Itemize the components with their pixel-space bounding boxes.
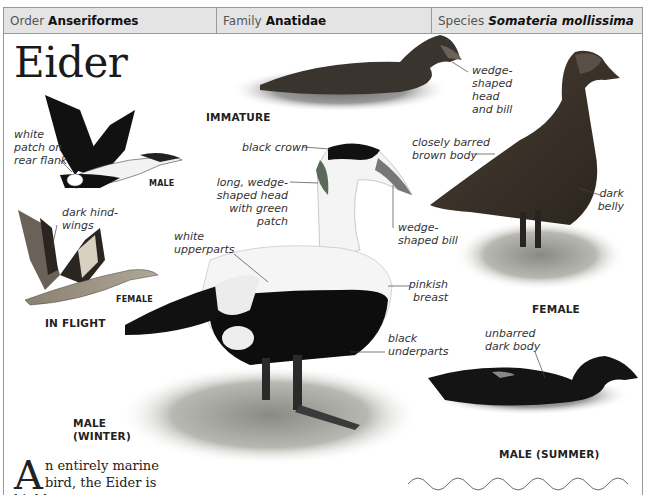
caption-line: brown body	[412, 149, 490, 162]
page-title: Eider	[14, 38, 127, 87]
label-female-flight: FEMALE	[116, 293, 153, 306]
caption-line: unbarred	[485, 327, 540, 340]
caption-black-crown: black crown	[242, 141, 308, 154]
male-summer-illustration	[428, 356, 638, 415]
caption-closely-barred: closely barred brown body	[412, 136, 490, 162]
caption-line: pinkish	[406, 278, 448, 291]
wave-divider	[408, 478, 628, 490]
label-male-flight: MALE	[149, 177, 175, 190]
caption-wedge-bill: wedge- shaped bill	[398, 221, 458, 247]
caption-line: dark hind-	[62, 206, 118, 219]
caption-line: breast	[406, 291, 448, 304]
caption-long-wedge-head: long, wedge- shaped head with green patc…	[208, 176, 288, 228]
label-male-summer: MALE (SUMMER)	[499, 448, 600, 461]
caption-line: wings	[62, 219, 118, 232]
caption-line: black	[388, 332, 449, 345]
label-line: (WINTER)	[73, 430, 131, 443]
caption-line: belly	[592, 200, 624, 213]
caption-line: white	[14, 128, 67, 141]
caption-black-underparts: black underparts	[388, 332, 449, 358]
caption-line: upperparts	[174, 243, 235, 256]
caption-line: patch on	[14, 141, 67, 154]
caption-line: rear flank	[14, 154, 67, 167]
caption-line: closely barred	[412, 136, 490, 149]
immature-illustration	[230, 35, 462, 112]
caption-line: shaped bill	[398, 234, 458, 247]
caption-line: white	[174, 230, 235, 243]
body-text: A n entirely marine bird, the Eider is h…	[14, 457, 170, 495]
label-female: FEMALE	[532, 303, 580, 316]
caption-dark-belly: dark belly	[592, 187, 624, 213]
label-in-flight: IN FLIGHT	[45, 317, 106, 330]
label-line: MALE	[73, 417, 131, 430]
caption-line: and bill	[472, 103, 512, 116]
label-immature: IMMATURE	[206, 111, 271, 124]
caption-line: wedge-	[472, 64, 512, 77]
caption-line: head	[472, 90, 512, 103]
caption-line: with green patch	[208, 202, 288, 228]
caption-white-patch: white patch on rear flank	[14, 128, 67, 167]
drop-cap: A	[14, 459, 43, 491]
caption-wedge-head-bill: wedge- shaped head and bill	[472, 64, 512, 116]
caption-pinkish-breast: pinkish breast	[406, 278, 448, 304]
caption-line: wedge-	[398, 221, 458, 234]
caption-line: dark body	[485, 340, 540, 353]
caption-dark-hindwings: dark hind- wings	[62, 206, 118, 232]
caption-line: long, wedge-	[208, 176, 288, 189]
caption-line: shaped	[472, 77, 512, 90]
caption-line: shaped head	[208, 189, 288, 202]
caption-unbarred-dark: unbarred dark body	[485, 327, 540, 353]
caption-line: underparts	[388, 345, 449, 358]
caption-white-upperparts: white upperparts	[174, 230, 235, 256]
female-illustration	[430, 51, 625, 290]
label-male-winter: MALE (WINTER)	[73, 417, 131, 443]
caption-line: dark	[592, 187, 624, 200]
